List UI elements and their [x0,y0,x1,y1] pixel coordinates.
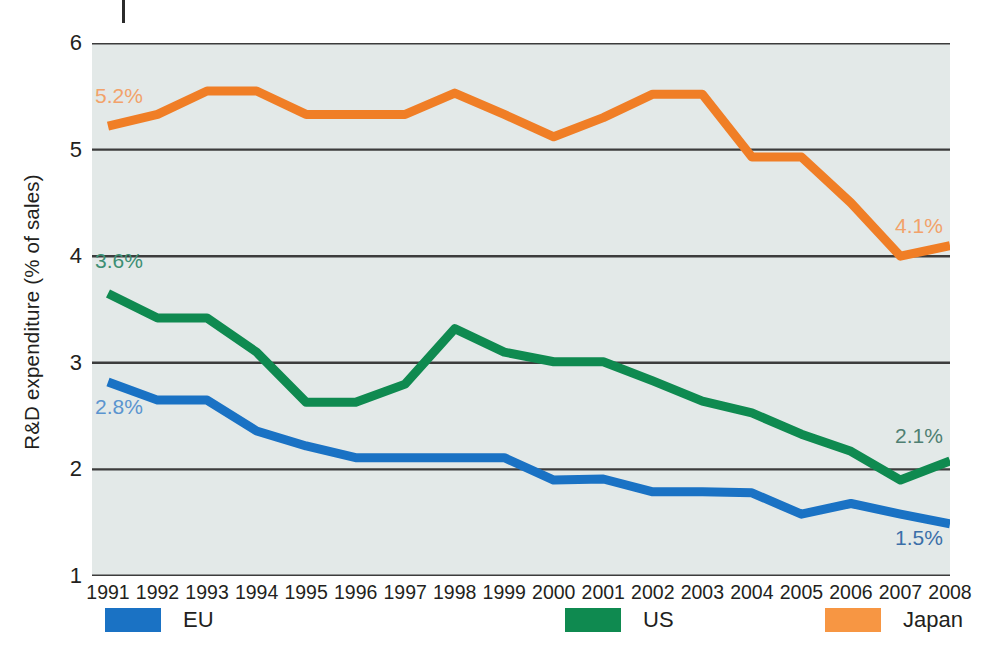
y-axis-title: R&D expenditure (% of sales) [20,52,44,572]
plot-area [92,43,950,576]
annotation-japan-start: 5.2% [95,85,143,106]
y-tick-label-2: 2 [52,458,82,480]
annotation-eu-start: 2.8% [95,396,143,417]
y-tick-label-4: 4 [52,245,82,267]
annotation-us-end: 2.1% [895,425,943,446]
series-line-japan [108,91,950,256]
x-tick-label-2008: 2008 [920,580,980,604]
legend-swatch-eu [105,608,161,632]
y-tick-label-6: 6 [52,32,82,54]
series-line-us [108,294,950,481]
plot-canvas [92,43,950,576]
legend-item-eu[interactable]: EU [105,608,214,632]
legend-swatch-us [565,608,621,632]
y-tick-label-5: 5 [52,139,82,161]
legend-label-us: US [643,609,674,631]
chart-figure: R&D expenditure (% of sales) 6 5 4 3 2 1… [0,0,990,662]
legend-item-japan[interactable]: Japan [825,608,963,632]
legend-label-japan: Japan [903,609,963,631]
annotation-us-start: 3.6% [95,250,143,271]
legend-swatch-japan [825,608,881,632]
top-tick-mark [122,0,125,23]
annotation-japan-end: 4.1% [895,215,943,236]
annotation-eu-end: 1.5% [895,527,943,548]
x-axis-tick-labels: 1991199219931994199519961997199819992000… [92,580,950,610]
chart-legend: EU US Japan [0,608,990,650]
legend-label-eu: EU [183,609,214,631]
y-tick-label-3: 3 [52,352,82,374]
series-lines [108,91,950,524]
legend-item-us[interactable]: US [565,608,674,632]
series-line-eu [108,382,950,524]
